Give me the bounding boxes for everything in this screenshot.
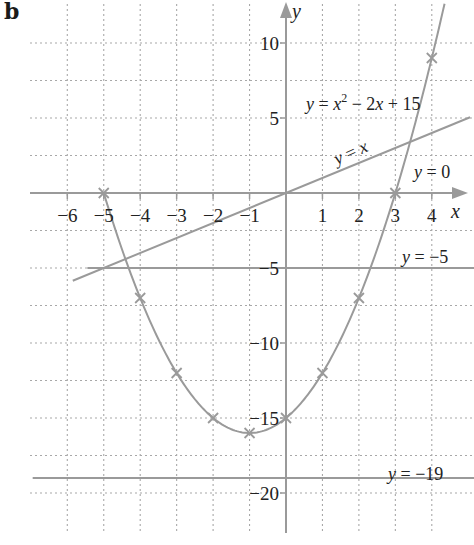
x-tick-label: −6	[57, 205, 77, 226]
x-tick-label: −4	[130, 205, 151, 226]
plot-area: −6−5−4−3−2−11234105−5−10−15−20 y x y = x…	[0, 0, 474, 545]
x-axis-label: x	[450, 200, 460, 222]
curve-equation-label: y = x2 − 2x + 15	[304, 91, 420, 114]
x-tick-label: −2	[203, 205, 223, 226]
panel-label: b	[4, 0, 19, 24]
y-axis-arrow-icon	[280, 2, 292, 18]
line-y-equals-0-label: y = 0	[412, 162, 450, 182]
series-layer	[33, 4, 474, 478]
y-axis-label: y	[290, 0, 301, 23]
y-tick-label: −10	[249, 333, 279, 354]
y-tick-label: −20	[249, 483, 279, 504]
line-y-equals-x-label: y = x	[329, 136, 371, 169]
y-tick-label: −15	[249, 408, 279, 429]
line-y-equals-minus19-label: y = −19	[386, 464, 443, 484]
x-tick-label: 3	[391, 205, 401, 226]
x-tick-label: 2	[354, 205, 364, 226]
x-tick-label: 4	[427, 205, 437, 226]
chart-figure: b −6−5−4−3−2−11234105−5−10−15−20 y x y =…	[0, 0, 474, 545]
y-tick-label: 5	[270, 108, 280, 129]
x-tick-label: −3	[167, 205, 187, 226]
line-y-equals-minus5-label: y = −5	[400, 247, 448, 267]
x-tick-label: −5	[94, 205, 114, 226]
x-tick-label: 1	[318, 205, 328, 226]
x-axis-arrow-icon	[452, 187, 468, 199]
y-tick-label: −5	[259, 258, 279, 279]
y-tick-label: 10	[260, 33, 279, 54]
x-tick-label: −1	[239, 205, 259, 226]
